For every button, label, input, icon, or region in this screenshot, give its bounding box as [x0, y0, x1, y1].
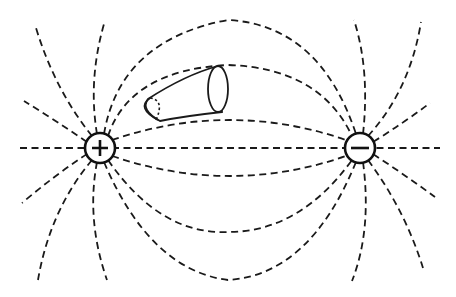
dipole-field-diagram	[0, 0, 456, 297]
field-line-minus-lr3	[352, 162, 366, 281]
field-line-lower-2	[108, 160, 352, 232]
field-line-upper-3	[104, 20, 356, 134]
field-line-plus-ul3	[94, 24, 104, 134]
positive-charge	[85, 133, 115, 163]
field-line-plus-ul1	[24, 101, 87, 142]
field-line-upper-1	[112, 120, 346, 140]
field-line-lower-1	[112, 156, 346, 176]
field-line-upper-2	[108, 65, 352, 136]
field-line-plus-ul2	[36, 28, 92, 136]
field-line-plus-ll2	[38, 160, 92, 280]
field-line-minus-ur3	[354, 20, 365, 134]
field-line-plus-ll3	[93, 162, 107, 280]
field-line-minus-lr1	[373, 154, 435, 197]
field-line-minus-ur2	[368, 22, 421, 136]
field-line-minus-lr2	[368, 160, 423, 268]
flux-tube-far-end	[208, 66, 228, 112]
field-line-minus-ur1	[373, 103, 430, 142]
flux-tube	[145, 66, 228, 121]
field-line-lower-3	[104, 162, 356, 280]
negative-charge	[345, 133, 375, 163]
